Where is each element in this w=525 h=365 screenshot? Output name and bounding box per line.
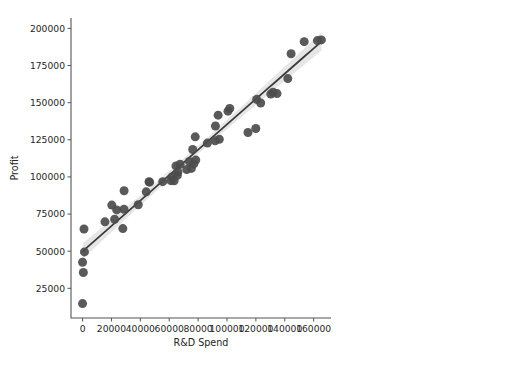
- svg-text:20000: 20000: [97, 323, 126, 334]
- svg-text:0: 0: [80, 323, 86, 334]
- svg-text:100000: 100000: [30, 171, 65, 182]
- svg-text:160000: 160000: [296, 323, 331, 334]
- regression-plot: 0200004000060000800001000001200001400001…: [0, 0, 525, 365]
- svg-text:75000: 75000: [36, 208, 65, 219]
- svg-text:175000: 175000: [30, 60, 65, 71]
- x-axis-label: R&D Spend: [174, 337, 229, 348]
- svg-text:40000: 40000: [126, 323, 155, 334]
- svg-text:150000: 150000: [30, 97, 65, 108]
- y-axis-ticks: 2500050000750001000001250001500001750002…: [30, 23, 71, 294]
- y-axis-label: Profit: [9, 155, 20, 180]
- svg-text:50000: 50000: [36, 246, 65, 257]
- x-axis-ticks: 0200004000060000800001000001200001400001…: [80, 318, 332, 334]
- svg-text:25000: 25000: [36, 283, 65, 294]
- svg-text:125000: 125000: [30, 134, 65, 145]
- svg-text:80000: 80000: [183, 323, 212, 334]
- svg-text:60000: 60000: [155, 323, 184, 334]
- scatter-points: [78, 35, 326, 308]
- svg-text:200000: 200000: [30, 23, 65, 34]
- figure-canvas: 0200004000060000800001000001200001400001…: [0, 0, 525, 365]
